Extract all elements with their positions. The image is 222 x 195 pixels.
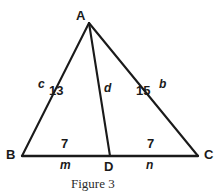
vertex-label-c: C (204, 148, 213, 161)
geometry-figure: A B D C c 13 d 15 b 7 m 7 n Figure 3 (0, 0, 222, 195)
side-label-ab-variable: c (38, 78, 45, 90)
vertex-label-d: D (104, 160, 113, 173)
vertex-label-a: A (76, 9, 85, 22)
side-label-ac-variable: b (159, 78, 166, 90)
figure-caption: Figure 3 (71, 176, 115, 192)
segment-label-bd-variable: m (60, 159, 71, 171)
side-label-ab-length: 13 (49, 84, 63, 97)
side-label-ad-variable: d (104, 82, 111, 94)
segment-label-dc-length: 7 (147, 137, 154, 150)
segment-label-bd-length: 7 (61, 137, 68, 150)
vertex-label-b: B (6, 148, 15, 161)
segment-label-dc-variable: n (146, 159, 153, 171)
side-label-ac-length: 15 (136, 84, 150, 97)
